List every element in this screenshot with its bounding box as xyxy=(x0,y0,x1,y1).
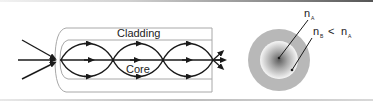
core-index-dot xyxy=(278,57,281,60)
fiber-side-view: Cladding Core xyxy=(18,27,224,92)
cladding-index-relation: n B < n A xyxy=(313,25,352,39)
core-label: Core xyxy=(126,63,150,75)
svg-text:<: < xyxy=(328,25,334,37)
fiber-cross-section: n A n B < n A xyxy=(248,7,352,91)
core-disc xyxy=(260,41,298,79)
core-index-label: n A xyxy=(304,7,315,21)
svg-text:A: A xyxy=(348,33,352,39)
incoming-rays xyxy=(18,40,54,79)
svg-text:A: A xyxy=(311,15,315,21)
cladding-label: Cladding xyxy=(117,27,160,39)
optical-fiber-diagram: Cladding Core n A n B < n A xyxy=(0,0,373,101)
svg-text:n: n xyxy=(341,25,347,37)
svg-text:B: B xyxy=(320,33,324,39)
svg-text:n: n xyxy=(313,25,319,37)
cladding-index-dot xyxy=(291,69,294,72)
svg-text:n: n xyxy=(304,7,310,19)
